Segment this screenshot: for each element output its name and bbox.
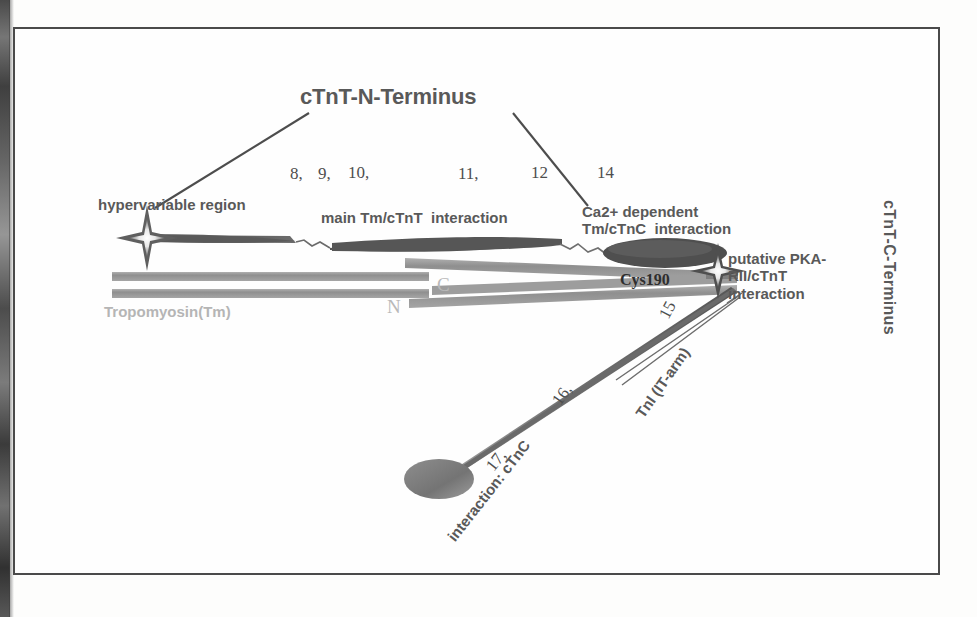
figure-page: cTnT-N-Terminus hypervariable region mai… xyxy=(0,0,977,617)
reference-number-10: 10, xyxy=(348,163,369,183)
label-ca-dependent-interaction: Ca2+ dependent Tm/cTnC interaction xyxy=(582,203,731,238)
page-title: cTnT-N-Terminus xyxy=(300,84,476,109)
label-main-tm-ctnt-interaction: main Tm/cTnT interaction xyxy=(321,209,508,226)
label-ctnt-c-terminus: cTnT-C-Terminus xyxy=(880,200,898,335)
label-tropomyosin: Tropomyosin(Tm) xyxy=(104,303,231,320)
label-terminus-c: C xyxy=(437,274,450,296)
label-cys190: Cys190 xyxy=(620,271,670,289)
label-hypervariable-region: hypervariable region xyxy=(98,196,246,213)
reference-number-12: 12 xyxy=(531,163,548,183)
reference-number-8: 8, xyxy=(290,164,303,184)
reference-number-11: 11, xyxy=(458,164,479,184)
reference-number-9: 9, xyxy=(318,164,331,184)
label-terminus-n: N xyxy=(387,296,401,318)
label-putative-pka-rii-interaction: putative PKA- RII/cTnT interaction xyxy=(728,250,826,302)
reference-number-14: 14 xyxy=(597,163,614,183)
